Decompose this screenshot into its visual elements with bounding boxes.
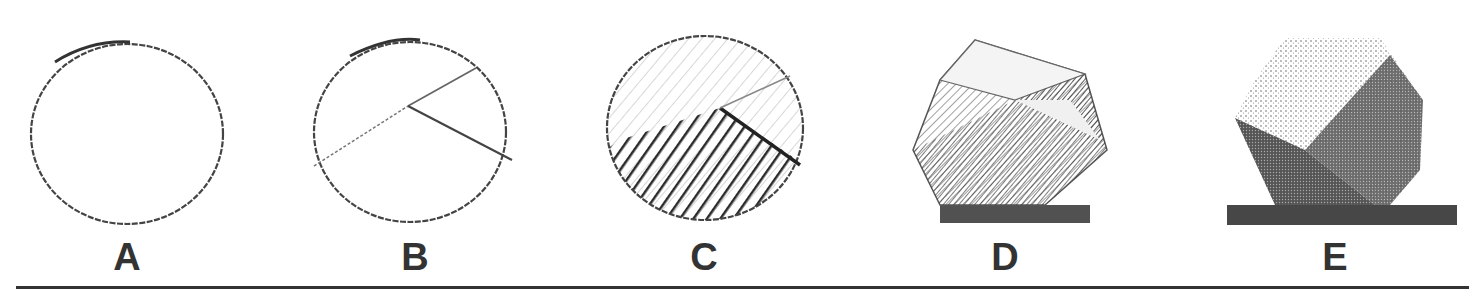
panel-e: E	[1215, 0, 1469, 290]
panel-label: E	[1305, 236, 1365, 279]
panel-label: C	[674, 236, 734, 279]
panel-d: D	[895, 0, 1135, 290]
panel-c: C	[590, 0, 830, 290]
panel-b: B	[290, 0, 550, 290]
bottom-rule-divider	[16, 286, 1469, 289]
panel-label: D	[975, 236, 1035, 279]
panel-label: B	[385, 236, 445, 279]
panel-a: A	[0, 0, 260, 290]
panel-label: A	[97, 236, 157, 279]
